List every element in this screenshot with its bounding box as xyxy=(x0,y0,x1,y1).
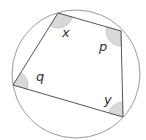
angle-label-q: q xyxy=(36,69,44,84)
cyclic-quadrilateral-diagram: x p q y xyxy=(0,0,146,140)
angle-label-y: y xyxy=(103,92,112,107)
diagram-canvas: x p q y xyxy=(0,0,146,140)
angle-label-x: x xyxy=(61,25,70,40)
angle-p-sector xyxy=(106,27,121,46)
angle-label-p: p xyxy=(98,39,107,54)
circumcircle xyxy=(12,10,140,138)
